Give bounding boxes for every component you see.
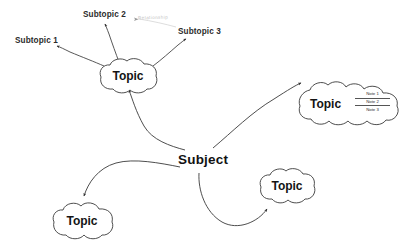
edge-subject-to-topic-bottom-left	[84, 161, 180, 196]
edge-subject-to-topic-top	[129, 90, 185, 150]
edge-subject-to-topic-right	[213, 83, 301, 148]
notes-row[interactable]: Note 2	[355, 99, 390, 107]
notes-row[interactable]: Note 3	[355, 106, 390, 113]
relationship-annotation-label: Relationship	[138, 15, 168, 21]
topic-node-right-with-notes[interactable]: Topic Note 1 Note 2 Note 3	[296, 80, 404, 128]
topic-node-bottom-left[interactable]: Topic	[48, 201, 116, 241]
cloud-shape-icon	[53, 203, 113, 239]
topic-node-top[interactable]: Topic	[96, 57, 160, 95]
cloud-shape-icon	[260, 169, 315, 203]
subject-node[interactable]: Subject	[178, 152, 228, 167]
mind-map-canvas: Subtopic 1 Subtopic 2 Subtopic 3 Relatio…	[0, 0, 410, 251]
subtopic-label-3[interactable]: Subtopic 3	[178, 27, 221, 36]
subtopic-label-1[interactable]: Subtopic 1	[15, 36, 58, 45]
notes-table: Note 1 Note 2 Note 3	[355, 91, 390, 113]
notes-row[interactable]: Note 1	[355, 91, 390, 99]
subtopic-label-2[interactable]: Subtopic 2	[83, 10, 126, 19]
topic-node-bottom-right[interactable]: Topic	[256, 167, 318, 205]
cloud-shape-icon	[100, 59, 157, 93]
